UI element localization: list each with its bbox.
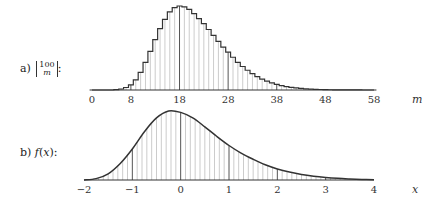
x-tick-label: 48 xyxy=(319,94,332,105)
x-tick-label: 18 xyxy=(173,94,186,105)
x-tick-label: −2 xyxy=(77,184,92,195)
x-axis-label: x xyxy=(412,183,419,196)
chart-a: 081828384858m xyxy=(89,6,423,106)
x-tick-label: 0 xyxy=(89,94,95,105)
x-tick-label: 3 xyxy=(322,184,328,195)
x-tick-label: −1 xyxy=(125,184,140,195)
x-tick-label: 2 xyxy=(274,184,280,195)
x-tick-label: 8 xyxy=(128,94,134,105)
chart-b: −2−101234x xyxy=(77,111,419,196)
x-tick-label: 4 xyxy=(371,184,377,195)
x-tick-label: 1 xyxy=(226,184,232,195)
x-tick-label: 0 xyxy=(177,184,183,195)
x-tick-label: 58 xyxy=(368,94,381,105)
x-tick-label: 38 xyxy=(270,94,283,105)
x-axis-label: m xyxy=(412,93,422,106)
chart-canvas: 081828384858m−2−101234x xyxy=(0,0,437,200)
x-tick-label: 28 xyxy=(222,94,235,105)
